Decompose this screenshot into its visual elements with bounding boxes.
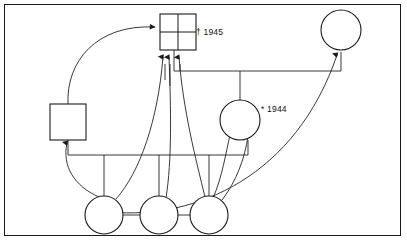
arrow-bottom3-to-center-left bbox=[213, 135, 230, 198]
sibling-bar-main bbox=[68, 140, 248, 155]
node-circle-bottom-1[interactable] bbox=[85, 196, 123, 234]
node-circle-top-right[interactable] bbox=[321, 10, 361, 50]
birth-year-label: * 1944 bbox=[261, 104, 287, 114]
node-circle-center[interactable] bbox=[220, 100, 260, 140]
node-ego-square-deceased[interactable] bbox=[160, 14, 196, 50]
ego-stub-lines bbox=[165, 64, 180, 86]
death-year-label: † 1945 bbox=[196, 27, 223, 37]
diagram-page: † 1945 * 1944 bbox=[0, 0, 407, 242]
arrow-bottom1-to-left-square bbox=[66, 143, 99, 197]
arrow-bottom1-to-ego bbox=[116, 57, 163, 199]
node-square-left[interactable] bbox=[50, 104, 86, 140]
arrow-bottom2-to-ego bbox=[166, 57, 171, 198]
arrow-bottom-to-top-right-circle bbox=[110, 55, 337, 213]
arrow-left-square-to-ego bbox=[68, 27, 155, 104]
arrow-bottom3-to-ego bbox=[179, 57, 205, 197]
node-circle-bottom-3[interactable] bbox=[190, 196, 228, 234]
marriage-bar-top bbox=[174, 50, 341, 71]
node-circle-bottom-2[interactable] bbox=[140, 196, 178, 234]
